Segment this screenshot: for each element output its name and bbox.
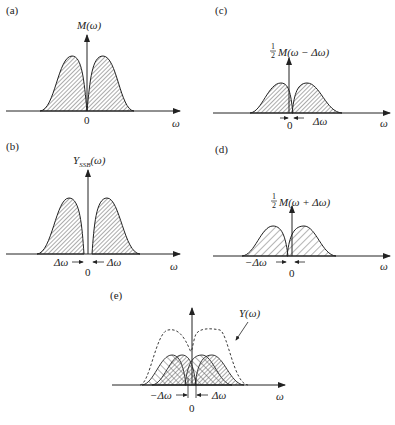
- delta-omega-mark: Δω: [312, 115, 327, 127]
- minus-delta-mark: −Δω: [150, 389, 172, 401]
- curve-label-e: Y(ω): [239, 307, 261, 320]
- xlabel-c: ω: [380, 117, 388, 129]
- origin-label-c: 0: [287, 119, 293, 131]
- xlabel-d: ω: [380, 260, 388, 272]
- minus-delta-mark: −Δω: [245, 256, 267, 268]
- left-delta-mark: Δω: [53, 256, 68, 268]
- plus-delta-mark: Δω: [211, 389, 226, 401]
- svg-text:2: 2: [272, 201, 276, 210]
- panel-label-d: (d): [215, 143, 228, 156]
- spectrum-shifted-plus-right: [195, 355, 244, 385]
- panel-e: (e) Y(ω) −Δω Δω 0 ω: [110, 289, 285, 414]
- spectrum-left-lobe: [250, 83, 293, 113]
- spectrum-left-lobe: [242, 226, 288, 256]
- spectrum-right-lobe: [92, 198, 140, 254]
- spectrum-right-lobe: [292, 83, 342, 113]
- panel-label-e: (e): [110, 289, 123, 302]
- panel-d: (d) 1 2 M(ω + Δω) −Δω 0 ω: [213, 143, 390, 279]
- right-delta-mark: Δω: [106, 256, 121, 268]
- svg-text:1: 1: [272, 192, 276, 201]
- ylabel-d: M(ω + Δω): [278, 196, 331, 209]
- spectrum-left-lobe: [37, 198, 84, 254]
- ylabel-c: M(ω − Δω): [277, 46, 330, 59]
- xlabel-e: ω: [276, 390, 284, 402]
- panel-label-b: (b): [6, 140, 19, 153]
- half-fraction: 1: [271, 42, 275, 51]
- spectrum-right-lobe: [287, 226, 336, 256]
- panel-label-a: (a): [6, 4, 19, 17]
- spectrum-diagram: (a) M(ω) 0 ω (c) 1 2 M(ω − Δω) 0 Δω ω (b…: [0, 0, 395, 425]
- xlabel-b: ω: [170, 260, 178, 272]
- pointer-arrow: [236, 322, 248, 340]
- spectrum-left-lobe: [40, 56, 87, 111]
- spectrum-right-lobe: [87, 56, 134, 111]
- xlabel-a: ω: [172, 117, 180, 129]
- origin-label-e: 0: [189, 402, 195, 414]
- origin-label-d: 0: [289, 267, 295, 279]
- panel-label-c: (c): [215, 4, 228, 17]
- ylabel-a: M(ω): [76, 19, 102, 32]
- origin-label-b: 0: [85, 266, 91, 278]
- panel-c: (c) 1 2 M(ω − Δω) 0 Δω ω: [213, 4, 390, 131]
- svg-text:2: 2: [271, 51, 275, 60]
- panel-a: (a) M(ω) 0 ω: [6, 4, 180, 129]
- origin-label-a: 0: [84, 114, 90, 126]
- ylabel-b: YSSB(ω): [73, 154, 106, 169]
- panel-b: (b) YSSB(ω) Δω Δω 0 ω: [6, 140, 180, 278]
